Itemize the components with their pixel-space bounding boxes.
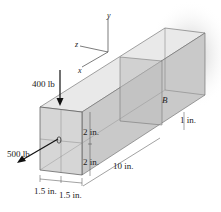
dim-width-left: 1.5 in.: [34, 187, 57, 196]
dim-length: 10 in.: [113, 162, 134, 171]
load-500lb-label: 500 lb: [7, 150, 30, 159]
load-400lb-label: 400 lb: [32, 80, 55, 89]
axis-label-z: z: [75, 41, 78, 49]
dim-upper-height: 2 in.: [83, 128, 99, 137]
axis-label-x: x: [78, 67, 82, 75]
dim-lower-height: 2 in.: [83, 158, 99, 167]
axis-label-y: y: [107, 12, 111, 20]
dim-width-right: 1.5 in.: [59, 191, 82, 200]
coordinate-axes: [80, 18, 108, 67]
point-b-label: B: [162, 96, 168, 105]
dim-offset-b: 1 in.: [180, 116, 196, 125]
beam-diagram: [0, 0, 221, 212]
